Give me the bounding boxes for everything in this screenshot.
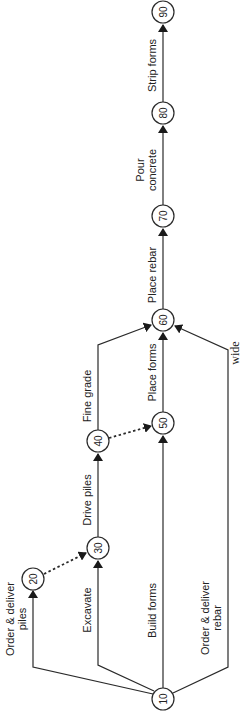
label-line: Build forms: [146, 568, 158, 653]
node-label-10: 10: [158, 693, 169, 705]
label-line: piles: [16, 575, 28, 663]
arrow-40-60: [98, 325, 151, 430]
label-build-forms: Build forms: [146, 568, 158, 653]
label-place-forms: Place forms: [146, 335, 158, 410]
label-line: rebar: [211, 573, 223, 663]
node-label-40: 40: [93, 435, 104, 447]
label-line: Place forms: [146, 335, 158, 410]
label-excavate: Excavate: [81, 575, 93, 645]
label-pour-concrete: Pour concrete: [134, 140, 158, 200]
node-label-30: 30: [93, 542, 104, 554]
label-drive-piles: Drive piles: [81, 470, 93, 530]
annotation-wide: wide: [229, 338, 241, 368]
node-label-90: 90: [158, 6, 169, 18]
label-line: Order & deliver: [199, 573, 211, 663]
node-label-70: 70: [158, 210, 169, 222]
label-line: Drive piles: [81, 470, 93, 530]
label-place-rebar: Place rebar: [146, 240, 158, 310]
label-order-deliver-rebar: Order & deliver rebar: [199, 573, 223, 663]
node-label-60: 60: [158, 314, 169, 326]
label-line: Pour: [134, 140, 146, 200]
label-fine-grade: Fine grade: [81, 366, 93, 426]
dummy-20-30: [44, 553, 86, 574]
node-label-80: 80: [158, 107, 169, 119]
arrow-10-20: [33, 591, 153, 694]
label-line: Place rebar: [146, 240, 158, 310]
dummy-40-50: [109, 426, 151, 438]
label-line: Fine grade: [81, 366, 93, 426]
label-order-deliver-piles: Order & deliver piles: [4, 575, 28, 663]
label-line: Order & deliver: [4, 575, 16, 663]
label-strip-forms: Strip forms: [146, 33, 158, 98]
node-label-20: 20: [28, 573, 39, 585]
label-line: Excavate: [81, 575, 93, 645]
label-line: Strip forms: [146, 33, 158, 98]
label-line: concrete: [146, 140, 158, 200]
network-diagram: 10 20 30 40 50 60 70 80 90 Order & deliv…: [0, 0, 244, 724]
node-label-50: 50: [158, 417, 169, 429]
